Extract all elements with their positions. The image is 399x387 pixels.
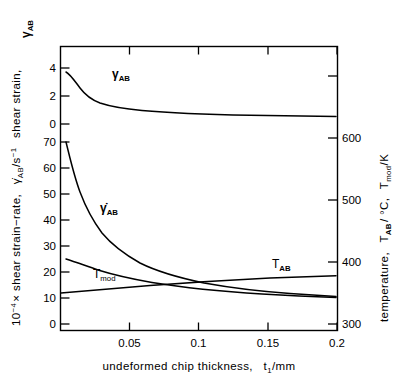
x-axis-title-units: /mm	[272, 360, 296, 372]
right-tick-label-400: 400	[342, 256, 361, 268]
svg-text:temperature, TAB/ °C,: temperature, TAB/ °C, Tmod/K	[378, 154, 393, 322]
x-tick-label-3: 0.2	[329, 337, 345, 349]
right-axis-title-symbol-1: T	[378, 235, 390, 242]
left-lower-tick-label-0: 0	[50, 318, 56, 330]
left-axis-title-scale-exp: −4	[9, 302, 18, 312]
top-corner-symbol: γAB	[19, 20, 35, 38]
x-tick-label-1: 0.1	[191, 337, 207, 349]
x-axis-title-main: undeformed chip thickness,	[103, 360, 253, 372]
curve-label-shear-strain: γAB	[112, 67, 130, 83]
svg-text:γAB: γAB	[112, 67, 130, 83]
svg-text:undeformed chip thickness,: undeformed chip thickness, t1/mm	[103, 360, 296, 375]
svg-text:Tmod: Tmod	[93, 267, 116, 283]
curve-label-temperature-ab-sub: AB	[279, 264, 291, 273]
left-lower-tick-label-10: 10	[43, 292, 56, 304]
right-tick-label-600: 600	[342, 132, 361, 144]
curve-label-shear-strain-rate: γ̇AB	[100, 201, 118, 217]
svg-text:γAB: γAB	[19, 20, 35, 38]
x-tick-label-2: 0.15	[257, 337, 279, 349]
x-tick-label-0: 0.05	[118, 337, 140, 349]
top-corner-symbol-sub: AB	[26, 20, 35, 32]
right-axis-tick-labels: 300 400 500 600	[342, 132, 361, 330]
right-axis-title-prefix: temperature,	[378, 252, 390, 322]
x-axis-ticks	[130, 323, 338, 331]
right-axis-title-symbol-1-sub: AB	[384, 223, 393, 235]
right-tick-label-300: 300	[342, 318, 361, 330]
right-axis-title-units-2: /K	[378, 154, 390, 166]
right-axis-title: temperature, TAB/ °C, Tmod/K	[378, 154, 393, 322]
curve-label-shear-strain-rate-sub: AB	[107, 208, 119, 217]
left-lower-tick-label-30: 30	[43, 240, 56, 252]
left-lower-tick-label-70: 70	[43, 136, 56, 148]
top-axis-ticks	[130, 47, 338, 55]
figure-container: 0.05 0.1 0.15 0.2 undeformed chip thickn…	[0, 0, 399, 387]
left-axis-title: 10−4× shear strain−rate, γ̇AB/s−1 shear …	[6, 69, 25, 326]
left-axis-title-scale: 10	[10, 312, 22, 326]
right-axis-ticks	[328, 76, 337, 324]
left-lower-tick-label-50: 50	[43, 188, 56, 200]
right-axis-title-units-1: / °C,	[378, 198, 390, 223]
left-upper-tick-label-2: 2	[50, 90, 56, 102]
left-axis-title-upper-prefix: shear strain,	[10, 69, 22, 137]
left-axis-title-symbol-sub: AB	[16, 167, 25, 178]
left-upper-tick-label-4: 4	[50, 62, 57, 74]
curve-label-shear-strain-sub: AB	[119, 74, 131, 83]
plot-frame	[61, 47, 338, 331]
left-lower-axis-ticks	[61, 142, 70, 324]
curve-label-temperature-ab: TAB	[272, 257, 291, 273]
curve-label-temperature-mod: Tmod	[93, 267, 116, 283]
left-upper-axis-ticks	[61, 68, 70, 124]
left-upper-tick-label-0: 0	[50, 118, 56, 130]
right-axis-title-symbol-2-sub: mod	[384, 165, 393, 181]
x-axis-tick-labels: 0.05 0.1 0.15 0.2	[118, 337, 345, 349]
chart-svg: 0.05 0.1 0.15 0.2 undeformed chip thickn…	[0, 0, 399, 387]
curve-shear-strain	[66, 72, 336, 117]
curve-label-temperature-mod-sub: mod	[100, 274, 115, 283]
left-lower-axis-tick-labels: 70 60 50 40 30 20 10 0	[43, 136, 56, 330]
left-upper-axis-tick-labels: 4 2 0	[50, 62, 57, 130]
left-axis-title-units: /s	[10, 157, 22, 167]
left-axis-title-mid: × shear strain−rate,	[10, 194, 22, 302]
right-axis-title-symbol-2: T	[378, 182, 390, 189]
left-lower-tick-label-20: 20	[43, 266, 56, 278]
left-lower-tick-label-40: 40	[43, 214, 56, 226]
x-axis-title: undeformed chip thickness, t1/mm	[103, 360, 296, 375]
right-tick-label-500: 500	[342, 194, 361, 206]
left-axis-title-units-exp: −1	[9, 148, 18, 158]
curve-shear-strain-path	[66, 72, 336, 117]
svg-text:γ̇AB: γ̇AB	[100, 201, 118, 217]
svg-text:10−4× shear strain−rate,: 10−4× shear strain−rate, γ̇AB/s−1 shear …	[6, 69, 25, 326]
svg-text:TAB: TAB	[272, 257, 291, 273]
left-lower-tick-label-60: 60	[43, 162, 56, 174]
